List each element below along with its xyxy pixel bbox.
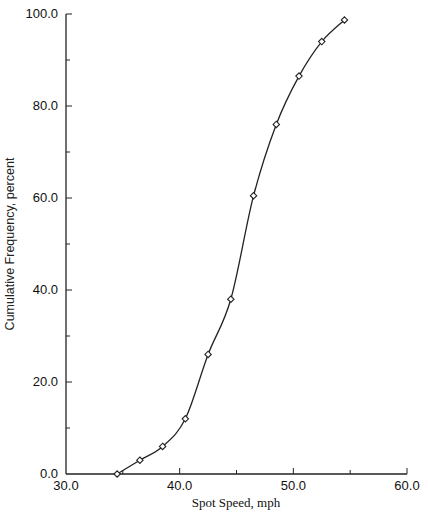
diamond-marker-icon xyxy=(182,416,188,422)
y-tick-label: 60.0 xyxy=(33,190,58,205)
cumulative-frequency-line xyxy=(117,20,344,474)
diamond-marker-icon xyxy=(250,193,256,199)
diamond-marker-icon xyxy=(273,121,279,127)
diamond-marker-icon xyxy=(137,457,143,463)
x-tick-label: 50.0 xyxy=(281,478,306,493)
y-tick-label: 100.0 xyxy=(25,6,58,21)
diamond-marker-icon xyxy=(296,73,302,79)
y-axis-label: Cumulative Frequency, percent xyxy=(3,157,17,330)
y-tick-label: 40.0 xyxy=(33,282,58,297)
diamond-marker-icon xyxy=(228,296,234,302)
diamond-marker-icon xyxy=(205,351,211,357)
ticks xyxy=(66,14,407,474)
y-tick-label: 80.0 xyxy=(33,98,58,113)
y-tick-label: 0.0 xyxy=(40,466,58,481)
cumulative-speed-chart: 30.040.050.060.00.020.040.060.080.0100.0… xyxy=(0,0,428,517)
x-tick-label: 40.0 xyxy=(167,478,192,493)
tick-labels: 30.040.050.060.00.020.040.060.080.0100.0 xyxy=(25,6,419,493)
y-tick-label: 20.0 xyxy=(33,374,58,389)
data-point-markers xyxy=(114,17,348,477)
diamond-marker-icon xyxy=(114,471,120,477)
axes xyxy=(66,14,407,474)
x-axis-label: Spot Speed, mph xyxy=(192,495,281,510)
x-tick-label: 60.0 xyxy=(394,478,419,493)
